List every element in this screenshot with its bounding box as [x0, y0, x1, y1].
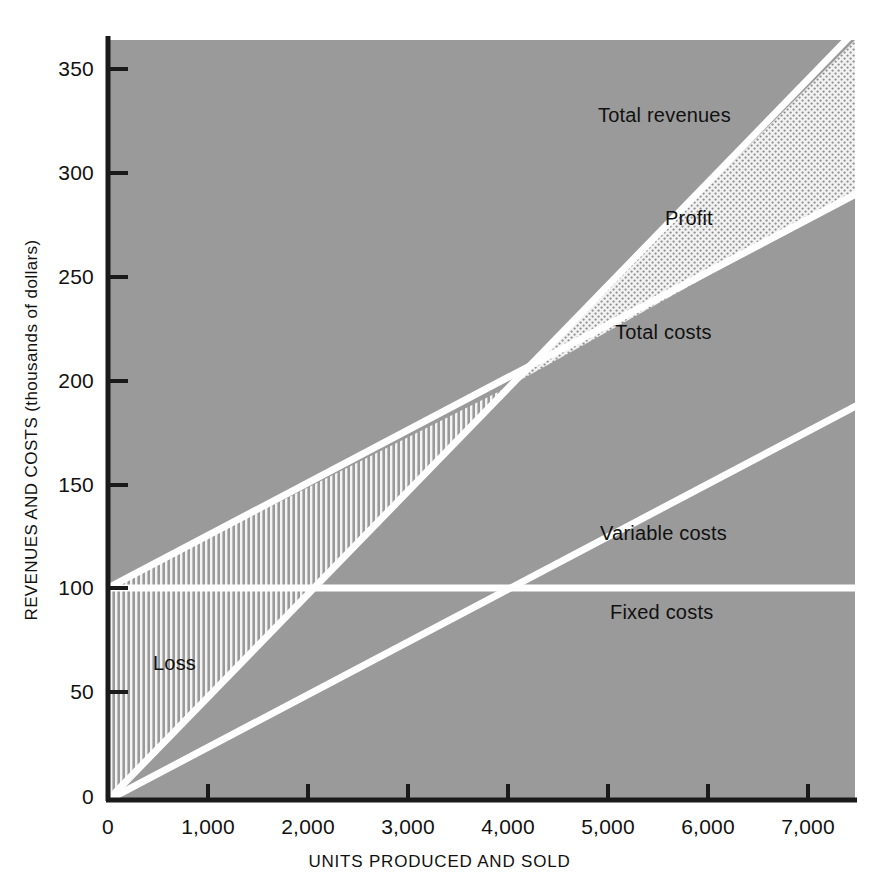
break-even-chart-figure: 350 300 250 200 150 100 50 0 0 1,000 2,0…	[0, 0, 879, 892]
series-label-variable-costs: Variable costs	[600, 522, 727, 545]
x-tick-label-0: 0	[102, 815, 114, 839]
x-tick-label-1000: 1,000	[181, 815, 235, 839]
x-tick-label-3000: 3,000	[381, 815, 435, 839]
series-label-profit: Profit	[665, 207, 713, 230]
series-label-fixed-costs: Fixed costs	[610, 601, 713, 624]
y-tick-label-0: 0	[20, 785, 94, 809]
series-label-loss: Loss	[153, 652, 196, 675]
x-axis-title: UNITS PRODUCED AND SOLD	[0, 852, 879, 872]
chart-canvas	[0, 0, 879, 892]
x-tick-label-4000: 4,000	[481, 815, 535, 839]
x-tick-label-7000: 7,000	[781, 815, 835, 839]
x-tick-label-2000: 2,000	[281, 815, 335, 839]
series-label-total-costs: Total costs	[615, 321, 712, 344]
x-tick-label-6000: 6,000	[681, 815, 735, 839]
x-tick-label-5000: 5,000	[581, 815, 635, 839]
series-label-total-revenues: Total revenues	[598, 104, 731, 127]
y-axis-title: REVENUES AND COSTS (thousands of dollars…	[22, 170, 42, 690]
y-tick-label-350: 350	[20, 57, 94, 81]
